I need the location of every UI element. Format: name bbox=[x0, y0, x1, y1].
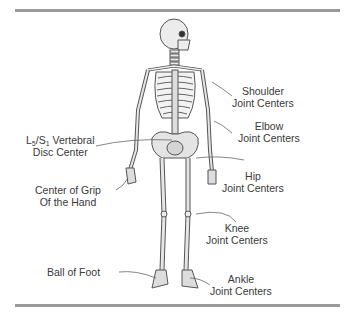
label-knee: Knee Joint Centers bbox=[206, 222, 268, 246]
label-hip: Hip Joint Centers bbox=[222, 170, 284, 194]
leader-ball bbox=[119, 272, 156, 278]
leader-grip bbox=[116, 178, 128, 190]
leader-elbow bbox=[214, 121, 232, 133]
label-grip: Center of Grip Of the Hand bbox=[35, 184, 101, 208]
label-shoulder: Shoulder Joint Centers bbox=[232, 85, 294, 109]
label-vertebral: L5/S1 Vertebral Disc Center bbox=[26, 134, 95, 158]
label-ball-of-foot: Ball of Foot bbox=[47, 266, 100, 278]
label-elbow: Elbow Joint Centers bbox=[238, 120, 300, 144]
leader-hip bbox=[196, 157, 244, 160]
label-ankle: Ankle Joint Centers bbox=[210, 273, 272, 297]
leader-shoulder bbox=[212, 82, 232, 96]
leader-knee bbox=[196, 212, 236, 222]
